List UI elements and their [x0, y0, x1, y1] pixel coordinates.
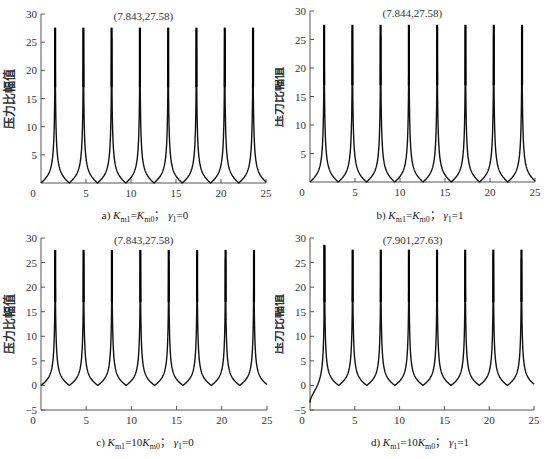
- x-tick-label: 5: [83, 187, 89, 199]
- subplot-c: −50510152025300510152025ωZ压力比幅值(7.843,27…: [0, 228, 275, 459]
- x-tick-label: 0: [299, 414, 305, 426]
- x-axis-label: ωZ: [418, 424, 431, 428]
- x-tick-label: 25: [262, 414, 274, 426]
- y-tick-label: 30: [26, 8, 38, 20]
- k-symbol: K: [388, 209, 395, 221]
- x-tick-label: 20: [216, 187, 228, 199]
- x-tick-label: 15: [171, 187, 183, 199]
- x-tick-label: 15: [440, 186, 452, 198]
- axes: −50510152025300510152025: [25, 232, 273, 426]
- y-tick-label: 20: [295, 281, 307, 293]
- x-tick-label: 20: [484, 414, 496, 426]
- y-tick-label: 0: [301, 379, 307, 391]
- k-subscript: m1: [396, 215, 406, 224]
- k-symbol: K: [108, 436, 115, 448]
- caption-prefix: c): [96, 436, 107, 448]
- peak-annotation: (7.844,27.58): [383, 7, 443, 20]
- caption-gamma-value: =1: [452, 209, 464, 221]
- y-tick-label: 20: [26, 64, 38, 76]
- y-tick-label: 5: [301, 148, 307, 160]
- x-tick-label: 10: [126, 414, 138, 426]
- x-tick-label: 10: [395, 186, 407, 198]
- response-curve: [41, 251, 267, 386]
- k-symbol: K: [412, 209, 419, 221]
- k-subscript: m1: [390, 442, 400, 451]
- axes: 510152025300510152025: [295, 5, 541, 198]
- x-tick-label: 0: [299, 186, 305, 198]
- x-tick-label: 5: [352, 414, 358, 426]
- x-tick-label: 10: [126, 187, 138, 199]
- x-axis-label: ωZ: [418, 196, 431, 200]
- k-subscript: m0: [144, 215, 154, 224]
- y-tick-label: 0: [32, 379, 38, 391]
- caption-prefix: b): [376, 209, 388, 221]
- caption-b: b) Km1=Km0； γ1=1: [300, 206, 540, 224]
- y-tick-label: 15: [26, 93, 38, 105]
- caption-d: d) Km1=10Km0； γ1=1: [300, 433, 540, 451]
- plot-area-c: −50510152025300510152025ωZ压力比幅值(7.843,27…: [0, 228, 275, 428]
- caption-separator: ；: [430, 209, 444, 221]
- k-subscript: m0: [425, 442, 435, 451]
- caption-separator: ；: [160, 436, 174, 448]
- subplot-d: −50510152025300510152025ωZ压力比幅值(7.901,27…: [275, 228, 551, 459]
- x-axis-label: ωZ: [149, 197, 162, 200]
- peak-annotation: (7.843,27.58): [114, 10, 174, 23]
- x-tick-label: 10: [394, 414, 406, 426]
- axes: 510152025300510152025: [26, 8, 272, 199]
- plot-area-a: 510152025300510152025ωZ压力比幅值(7.843,27.58…: [0, 0, 275, 200]
- k-subscript: m0: [420, 215, 430, 224]
- x-tick-label: 20: [216, 414, 228, 426]
- y-axis-label: 压力比幅值: [275, 67, 286, 127]
- y-tick-label: 25: [26, 257, 38, 269]
- y-tick-label: 20: [26, 281, 38, 293]
- x-tick-label: 5: [83, 414, 89, 426]
- caption-c: c) Km1=10Km0； γ1=0: [25, 433, 265, 451]
- caption-prefix: a): [102, 209, 113, 221]
- x-tick-label: 25: [529, 414, 541, 426]
- y-tick-label: 30: [295, 5, 307, 17]
- axes: −50510152025300510152025: [294, 232, 540, 426]
- peak-annotation: (7.843,27.58): [114, 234, 174, 247]
- y-tick-label: 10: [295, 330, 307, 342]
- x-tick-label: 15: [439, 414, 451, 426]
- response-curve: [310, 245, 534, 402]
- caption-separator: ；: [154, 209, 168, 221]
- y-tick-label: 10: [295, 119, 307, 131]
- y-tick-label: 5: [32, 355, 38, 367]
- caption-gamma-value: =1: [457, 436, 469, 448]
- y-tick-label: 15: [26, 306, 38, 318]
- response-curve: [310, 26, 535, 182]
- x-tick-label: 15: [171, 414, 183, 426]
- k-symbol: K: [418, 436, 425, 448]
- caption-a: a) Km1=Km0； γ1=0: [25, 206, 265, 224]
- x-tick-label: 20: [485, 186, 497, 198]
- x-tick-label: 0: [30, 187, 36, 199]
- y-tick-label: 30: [295, 232, 307, 244]
- caption-equals: =10: [125, 436, 142, 448]
- y-tick-label: 25: [26, 36, 38, 48]
- y-tick-label: 25: [295, 34, 307, 46]
- y-axis-label: 压力比幅值: [2, 294, 17, 354]
- y-tick-label: 5: [32, 149, 38, 161]
- x-axis-label: ωZ: [150, 424, 163, 428]
- y-tick-label: 15: [295, 306, 307, 318]
- caption-gamma-value: =0: [182, 436, 194, 448]
- k-symbol: K: [142, 436, 149, 448]
- caption-separator: ；: [435, 436, 449, 448]
- caption-equals: =10: [400, 436, 417, 448]
- y-tick-label: 5: [301, 355, 307, 367]
- x-tick-label: 25: [261, 187, 273, 199]
- subplot-b: 510152025300510152025ωZ压力比幅值(7.844,27.58…: [275, 0, 551, 228]
- x-tick-label: 25: [530, 186, 542, 198]
- peak-annotation: (7.901,27.63): [383, 234, 443, 247]
- k-subscript: m1: [115, 442, 125, 451]
- caption-gamma-value: =0: [177, 209, 189, 221]
- y-tick-label: 10: [26, 330, 38, 342]
- subplot-a: 510152025300510152025ωZ压力比幅值(7.843,27.58…: [0, 0, 275, 228]
- response-curve: [41, 29, 266, 183]
- y-tick-label: 10: [26, 121, 38, 133]
- y-axis-label: 压力比幅值: [2, 69, 17, 129]
- y-axis-label: 压力比幅值: [275, 294, 286, 354]
- k-subscript: m1: [120, 215, 130, 224]
- k-subscript: m0: [150, 442, 160, 451]
